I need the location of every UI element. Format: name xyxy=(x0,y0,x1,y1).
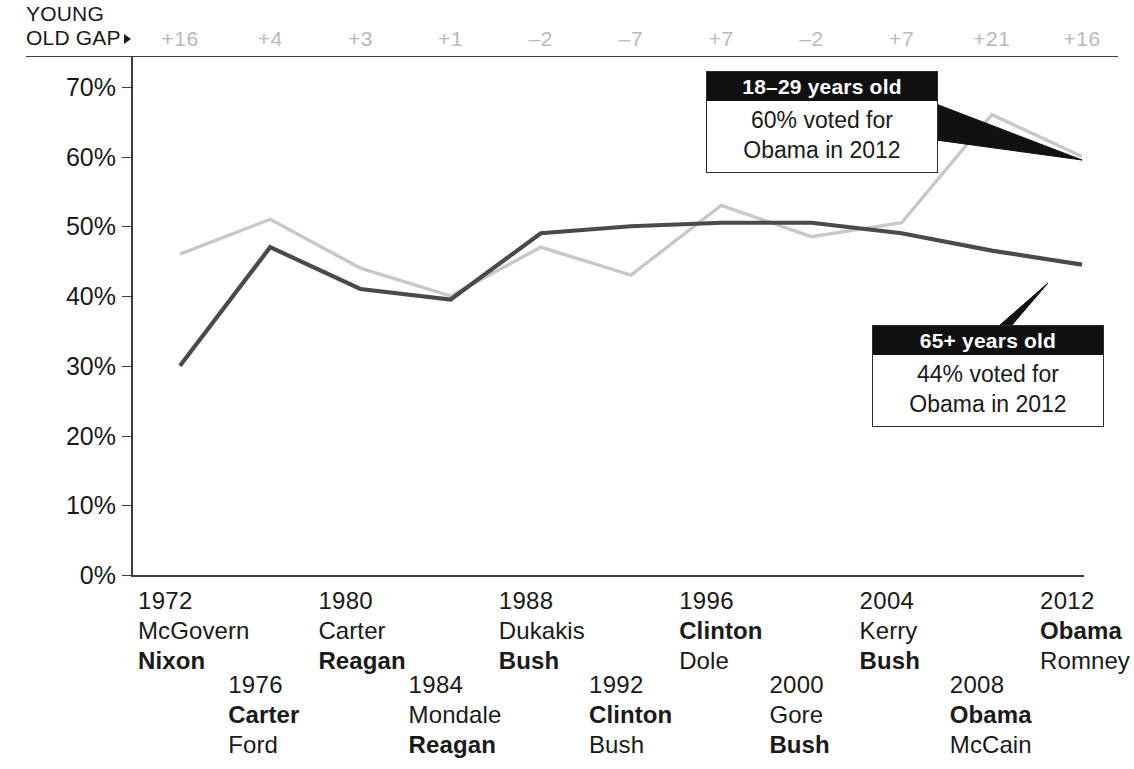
gap-value-1988: –2 xyxy=(529,27,553,51)
election-year-1992: 1992 xyxy=(589,670,672,700)
callout-young: 18–29 years old 60% voted for Obama in 2… xyxy=(706,71,938,173)
candidate-mondale-1984: Mondale xyxy=(409,700,502,730)
gap-value-1980: +3 xyxy=(348,27,373,51)
top-rule xyxy=(26,56,1118,57)
x-label-column-1996: 1996ClintonDole xyxy=(679,586,762,676)
y-tick-50% xyxy=(122,226,132,227)
election-year-2008: 2008 xyxy=(950,670,1032,700)
candidate-carter-1976: Carter xyxy=(228,700,299,730)
callout-young-body: 60% voted for Obama in 2012 xyxy=(707,101,937,172)
candidate-obama-2012: Obama xyxy=(1040,616,1130,646)
candidate-kerry-2004: Kerry xyxy=(860,616,920,646)
callout-young-line1: 60% voted for xyxy=(717,105,927,135)
y-axis-label-30%: 30% xyxy=(0,351,120,380)
y-axis-label-20%: 20% xyxy=(0,421,120,450)
y-tick-70% xyxy=(122,87,132,88)
gap-value-1976: +4 xyxy=(258,27,283,51)
y-tick-60% xyxy=(122,157,132,158)
election-year-2012: 2012 xyxy=(1040,586,1130,616)
x-label-column-1992: 1992ClintonBush xyxy=(589,670,672,760)
candidate-bush-1992: Bush xyxy=(589,730,672,760)
x-axis-line xyxy=(131,575,1084,577)
callout-young-leader xyxy=(936,104,1082,160)
callout-young-title: 18–29 years old xyxy=(707,72,937,101)
x-label-column-1980: 1980CarterReagan xyxy=(318,586,405,676)
y-axis-label-10%: 10% xyxy=(0,491,120,520)
candidate-clinton-1996: Clinton xyxy=(679,616,762,646)
candidate-reagan-1980: Reagan xyxy=(318,646,405,676)
candidate-bush-2000: Bush xyxy=(769,730,829,760)
y-axis-label-60%: 60% xyxy=(0,142,120,171)
y-tick-10% xyxy=(122,505,132,506)
candidate-ford-1976: Ford xyxy=(228,730,299,760)
x-label-column-1984: 1984MondaleReagan xyxy=(409,670,502,760)
x-label-column-2004: 2004KerryBush xyxy=(860,586,920,676)
series-line-young xyxy=(180,115,1082,296)
gap-value-1984: +1 xyxy=(438,27,463,51)
y-axis-label-70%: 70% xyxy=(0,72,120,101)
y-axis-label-40%: 40% xyxy=(0,282,120,311)
gap-value-2004: +7 xyxy=(889,27,914,51)
candidate-romney-2012: Romney xyxy=(1040,646,1130,676)
candidate-mccain-2008: McCain xyxy=(950,730,1032,760)
x-label-column-1976: 1976CarterFord xyxy=(228,670,299,760)
callout-old-title: 65+ years old xyxy=(873,326,1103,355)
x-label-column-1972: 1972McGovernNixon xyxy=(138,586,250,676)
gap-value-2012: +16 xyxy=(1063,27,1100,51)
y-tick-40% xyxy=(122,296,132,297)
callout-old-leader xyxy=(1000,283,1048,325)
callout-old-line2: Obama in 2012 xyxy=(883,389,1093,419)
callout-old-body: 44% voted for Obama in 2012 xyxy=(873,355,1103,426)
candidate-gore-2000: Gore xyxy=(769,700,829,730)
candidate-bush-2004: Bush xyxy=(860,646,920,676)
x-label-column-1988: 1988DukakisBush xyxy=(499,586,585,676)
callout-old-line1: 44% voted for xyxy=(883,359,1093,389)
callout-young-line2: Obama in 2012 xyxy=(717,135,927,165)
x-label-column-2008: 2008ObamaMcCain xyxy=(950,670,1032,760)
election-year-2004: 2004 xyxy=(860,586,920,616)
x-label-column-2012: 2012ObamaRomney xyxy=(1040,586,1130,676)
x-label-column-2000: 2000GoreBush xyxy=(769,670,829,760)
gap-value-1992: –7 xyxy=(619,27,643,51)
callout-old: 65+ years old 44% voted for Obama in 201… xyxy=(872,325,1104,427)
candidate-clinton-1992: Clinton xyxy=(589,700,672,730)
candidate-obama-2008: Obama xyxy=(950,700,1032,730)
candidate-dukakis-1988: Dukakis xyxy=(499,616,585,646)
gap-value-1972: +16 xyxy=(161,27,198,51)
y-axis-label-0%: 0% xyxy=(0,561,120,590)
election-year-1984: 1984 xyxy=(409,670,502,700)
election-year-1996: 1996 xyxy=(679,586,762,616)
election-year-2000: 2000 xyxy=(769,670,829,700)
y-axis-line xyxy=(131,57,133,576)
election-year-1980: 1980 xyxy=(318,586,405,616)
gap-value-2000: –2 xyxy=(799,27,823,51)
y-tick-20% xyxy=(122,436,132,437)
candidate-dole-1996: Dole xyxy=(679,646,762,676)
election-year-1972: 1972 xyxy=(138,586,250,616)
candidate-bush-1988: Bush xyxy=(499,646,585,676)
gap-value-1996: +7 xyxy=(709,27,734,51)
candidate-reagan-1984: Reagan xyxy=(409,730,502,760)
y-tick-30% xyxy=(122,366,132,367)
gap-value-2008: +21 xyxy=(973,27,1010,51)
y-axis-label-50%: 50% xyxy=(0,212,120,241)
candidate-carter-1980: Carter xyxy=(318,616,405,646)
election-year-1988: 1988 xyxy=(499,586,585,616)
election-year-1976: 1976 xyxy=(228,670,299,700)
chart-root: YOUNG OLD GAP +16+4+3+1–2–7+7–2+7+21+16 … xyxy=(0,0,1134,769)
gap-value-row: +16+4+3+1–2–7+7–2+7+21+16 xyxy=(0,0,1134,56)
y-tick-0% xyxy=(122,575,132,576)
candidate-mcgovern-1972: McGovern xyxy=(138,616,250,646)
